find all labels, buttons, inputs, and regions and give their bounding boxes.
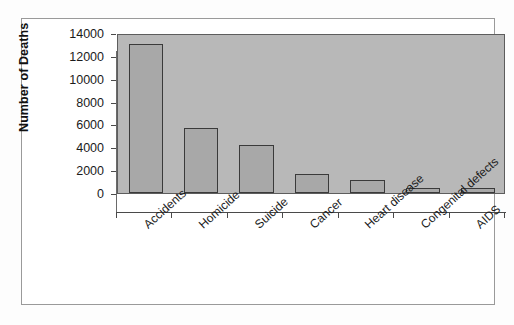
chart-frame: Number of Deaths 14000120001000080006000… [21,18,495,305]
x-tick-mark [338,213,339,218]
x-tick-mark [171,213,172,218]
y-tick-mark [111,171,116,172]
y-tick-mark [111,57,116,58]
y-tick-mark [111,103,116,104]
y-tick-mark [111,194,116,195]
x-axis-label: Cancer [307,195,345,231]
x-axis-label: Homicide [196,188,243,232]
y-tick-mark [111,80,116,81]
x-tick-mark [393,213,394,218]
y-tick-label: 4000 [44,142,111,155]
plot-area [117,34,505,194]
y-tick-mark [111,34,116,35]
y-tick-label: 8000 [44,96,111,109]
x-tick-mark [227,213,228,218]
bar [184,128,218,193]
bar [350,180,384,193]
y-tick-label: 14000 [44,28,111,41]
y-tick-mark [111,125,116,126]
x-tick-mark [282,213,283,218]
x-axis-label: Suicide [252,195,291,232]
bar [239,145,273,193]
x-tick-mark [504,213,505,218]
x-tick-mark [449,213,450,218]
bar [295,174,329,193]
y-tick-label: 10000 [44,73,111,86]
y-tick-label: 12000 [44,51,111,64]
y-tick-label: 6000 [44,119,111,132]
x-axis-label-text: Cancer [307,195,345,231]
y-axis-title: Number of Deaths [17,23,31,132]
y-tick-mark [111,148,116,149]
bar [129,44,163,193]
y-tick-label: 0 [44,188,111,201]
x-axis-label-text: Suicide [252,195,291,232]
x-axis-label-text: Homicide [196,188,243,232]
x-tick-mark [116,213,117,218]
y-tick-label: 2000 [44,165,111,178]
